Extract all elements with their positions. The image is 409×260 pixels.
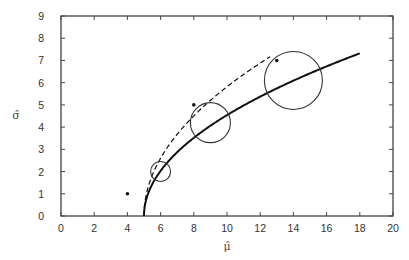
data-series (144, 53, 360, 216)
x-tick-label: 2 (91, 222, 97, 234)
y-tick-label: 3 (38, 143, 44, 155)
y-tick-label: 4 (38, 121, 44, 133)
x-tick-label: 0 (58, 222, 64, 234)
y-tick-label: 7 (38, 54, 44, 66)
x-tick-label: 10 (221, 222, 233, 234)
x-tick-label: 18 (354, 222, 366, 234)
chart: 024681012141618200123456789 μ̂ σ̂ (0, 0, 409, 260)
y-tick-label: 5 (38, 99, 44, 111)
y-tick-label: 0 (38, 210, 44, 222)
data-points (126, 59, 279, 196)
x-tick-label: 12 (254, 222, 266, 234)
data-circles (151, 51, 323, 181)
x-axis-label: μ̂ (223, 240, 230, 253)
y-tick-label: 6 (38, 77, 44, 89)
x-tick-label: 14 (288, 222, 300, 234)
dashed-curve (144, 57, 270, 216)
x-tick-label: 4 (124, 222, 130, 234)
x-tick-label: 20 (387, 222, 399, 234)
data-point (275, 59, 279, 63)
axis-tick-labels: 024681012141618200123456789 (38, 10, 399, 234)
y-tick-label: 2 (38, 166, 44, 178)
x-tick-label: 6 (158, 222, 164, 234)
y-tick-label: 1 (38, 188, 44, 200)
y-axis-label: σ̂ (12, 109, 20, 122)
x-tick-label: 16 (321, 222, 333, 234)
y-tick-label: 8 (38, 32, 44, 44)
uncertainty-circle (190, 103, 230, 143)
data-point (126, 192, 130, 196)
x-tick-label: 8 (191, 222, 197, 234)
data-point (192, 103, 196, 107)
y-tick-label: 9 (38, 10, 44, 22)
